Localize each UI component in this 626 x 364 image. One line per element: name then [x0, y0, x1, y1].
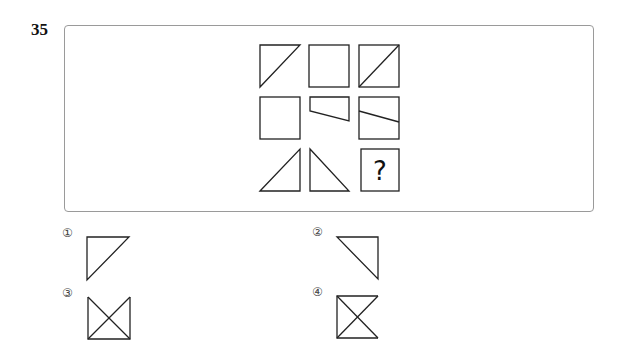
figures-canvas: ? [0, 0, 626, 364]
cell-1-3-diagonal-square-shape [359, 45, 399, 87]
option-4-label[interactable]: ④ [312, 285, 323, 299]
cell-1-2-square-shape [309, 45, 349, 87]
option-1-label[interactable]: ① [62, 226, 73, 240]
option-3-label[interactable]: ③ [62, 286, 73, 300]
option-4-open-right-x-shape [337, 296, 378, 338]
cell-2-1-square-shape [260, 97, 300, 139]
option-3-open-top-x-shape [88, 297, 130, 339]
option-2-triangle-shape [337, 237, 378, 279]
cell-3-2-triangle-shape [310, 149, 349, 191]
cell-2-3-slanted-line-square-shape [359, 97, 399, 139]
question-mark: ? [373, 156, 387, 186]
option-1-triangle-shape [87, 237, 129, 280]
cell-2-2-trapezoid-shape [310, 97, 349, 121]
option-2-label[interactable]: ② [312, 225, 323, 239]
cell-3-1-triangle-shape [260, 149, 300, 191]
cell-1-1-triangle-shape [260, 45, 300, 87]
